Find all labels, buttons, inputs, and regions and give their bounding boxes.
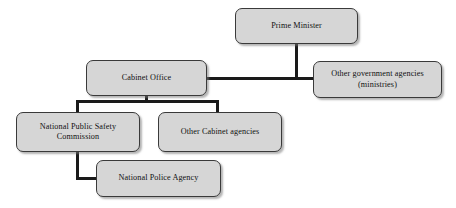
node-prime-minister-label: Prime Minister bbox=[271, 21, 322, 32]
node-national-public-safety-commission-label: National Public Safety Commission bbox=[40, 122, 116, 143]
org-chart-canvas: Prime Minister Cabinet Office Other gove… bbox=[0, 0, 456, 208]
node-other-government-agencies[interactable]: Other government agencies (ministries) bbox=[313, 61, 442, 98]
connector-npsc-npa-vertical bbox=[76, 150, 79, 180]
node-national-police-agency-label: National Police Agency bbox=[119, 173, 199, 184]
node-national-police-agency[interactable]: National Police Agency bbox=[96, 160, 221, 197]
connector-level2-bus bbox=[206, 77, 315, 80]
connector-pm-drop bbox=[295, 44, 298, 79]
node-other-government-agencies-label: Other government agencies (ministries) bbox=[331, 69, 424, 90]
node-other-cabinet-agencies[interactable]: Other Cabinet agencies bbox=[158, 112, 282, 152]
connector-layer bbox=[0, 0, 456, 208]
node-national-public-safety-commission[interactable]: National Public Safety Commission bbox=[16, 112, 140, 152]
node-cabinet-office-label: Cabinet Office bbox=[122, 73, 172, 84]
node-other-cabinet-agencies-label: Other Cabinet agencies bbox=[181, 127, 260, 138]
connector-level3-bus bbox=[76, 100, 219, 103]
node-cabinet-office[interactable]: Cabinet Office bbox=[86, 60, 207, 96]
node-prime-minister[interactable]: Prime Minister bbox=[235, 8, 358, 44]
